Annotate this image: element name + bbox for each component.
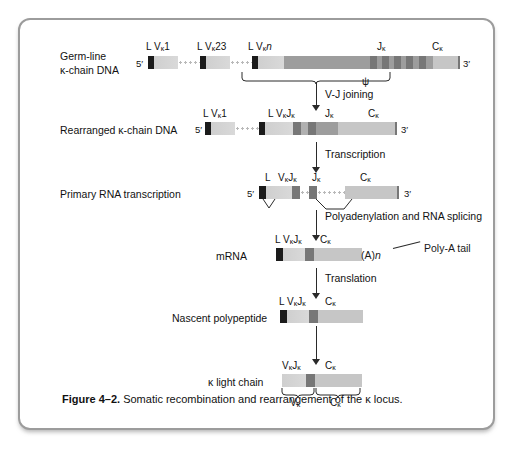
polypeptide-mark-ck: Cκ — [325, 296, 336, 307]
segment-intergenic — [284, 56, 370, 69]
light-chain-bar — [282, 374, 362, 387]
vj-arrow-line — [316, 82, 317, 106]
primary-c-kappa — [345, 186, 397, 199]
germline-mark-vk23: L Vκ23 — [197, 41, 226, 52]
poly-c-kappa — [318, 310, 363, 323]
rearr-c-kappa — [338, 122, 395, 135]
germline-3prime: 3′ — [463, 58, 470, 69]
primary-v — [266, 186, 292, 199]
germline-label-line2: κ-chain DNA — [60, 64, 119, 76]
primary-j-1 — [292, 186, 300, 199]
mrna-j — [305, 248, 314, 261]
germline-5prime: 5′ — [136, 58, 143, 69]
polypeptide-label: Nascent polypeptide — [172, 312, 267, 324]
rearr-j-extra — [308, 122, 316, 135]
primary-rna-3prime: 3′ — [404, 188, 411, 199]
step-transcription: Transcription — [325, 148, 385, 160]
primary-j-dots-1 — [300, 186, 309, 199]
rearr-v-1 — [211, 122, 235, 135]
segment-post-j — [426, 56, 433, 69]
mrna-polya-value: (A)n — [361, 249, 381, 261]
figure-caption-label: Figure 4–2. — [62, 393, 120, 405]
segment-v-n — [258, 56, 284, 69]
mrna-mark-ck: Cκ — [320, 234, 331, 245]
light-chain-label: κ light chain — [208, 376, 263, 388]
polyadenylation-arrow-line — [316, 210, 317, 236]
primary-mark-jk: Jκ — [312, 172, 321, 183]
vj-arrow-head — [312, 105, 320, 111]
pseudogene-symbol: ψ — [362, 76, 369, 87]
rearranged-mark-vkjk: L VκJκ — [268, 108, 295, 119]
step-translation: Translation — [325, 272, 377, 284]
pseudogene-brace — [240, 70, 400, 86]
germline-mark-vk1: L Vκ1 — [146, 41, 170, 52]
step-polyadenylation: Polyadenylation and RNA splicing — [325, 210, 482, 222]
polypeptide-mark-lvkjk: L VκJκ — [279, 296, 306, 307]
rearr-c-end — [395, 122, 397, 135]
polya-annotation: Poly-A tail — [424, 242, 471, 254]
segment-c-end — [458, 56, 460, 69]
translation-arrow-head — [312, 293, 320, 299]
rearranged-label: Rearranged κ-chain DNA — [60, 124, 177, 136]
segment-j-4 — [406, 56, 413, 69]
segment-c-kappa — [433, 56, 458, 69]
primary-intron-dots — [317, 186, 345, 199]
primary-rna-label: Primary RNA transcription — [60, 188, 181, 200]
cleavage-arrow-line — [316, 326, 317, 360]
segment-j-1 — [370, 56, 377, 69]
rearranged-mark-vk1: L Vκ1 — [203, 108, 227, 119]
lc-c-kappa — [315, 374, 362, 387]
segment-j-3 — [394, 56, 401, 69]
transcription-arrow-line — [316, 142, 317, 168]
rearranged-dna-bar — [205, 122, 399, 135]
rearranged-5prime: 5′ — [195, 124, 202, 135]
figure-caption: Figure 4–2. Somatic recombination and re… — [62, 392, 462, 406]
primary-mark-l: L — [265, 172, 271, 183]
figure-caption-text: Somatic recombination and rearrangement … — [123, 393, 402, 405]
segment-j-5 — [419, 56, 426, 69]
rearranged-mark-jk: Jκ — [325, 108, 334, 119]
mrna-c-kappa — [314, 248, 362, 261]
polyadenylation-arrow-head — [312, 235, 320, 241]
figure-canvas: Germ-line κ-chain DNA 5′ L Vκ1 L Vκ23 L … — [20, 20, 497, 432]
step-vj-joining: V-J joining — [325, 88, 373, 100]
segment-v-23 — [206, 56, 230, 69]
rearranged-3prime: 3′ — [401, 124, 408, 135]
germline-label-line1: Germ-line — [60, 50, 106, 62]
mrna-mark-lvkjk: L VκJκ — [275, 234, 302, 245]
primary-j-2 — [309, 186, 317, 199]
rearr-v-joined — [265, 122, 293, 135]
polypeptide-bar — [280, 310, 363, 323]
translation-arrow-line — [316, 268, 317, 294]
light-chain-mark-ck: Cκ — [325, 360, 336, 371]
rearr-intron — [316, 122, 338, 135]
germline-dna-bar — [148, 56, 460, 69]
polya-leader-line — [393, 241, 420, 249]
lc-j — [306, 374, 315, 387]
primary-rna-bar — [259, 186, 401, 199]
primary-mark-vkjk: VκJκ — [278, 172, 297, 183]
primary-rna-5prime: 5′ — [247, 188, 254, 199]
segment-j-2 — [382, 56, 389, 69]
lc-v — [282, 374, 306, 387]
rearr-spacer-dots — [235, 122, 259, 135]
germline-mark-vkn: L Vκn — [248, 41, 272, 52]
primary-mark-ck: Cκ — [360, 172, 371, 183]
figure-card: Germ-line κ-chain DNA 5′ L Vκ1 L Vκ23 L … — [18, 18, 495, 430]
rearr-j-gap-1 — [301, 122, 308, 135]
spacer-dots-1 — [178, 56, 200, 69]
leader-splice-notch — [262, 199, 278, 209]
poly-leader — [280, 310, 287, 323]
mrna-label: mRNA — [216, 250, 247, 262]
rearranged-mark-ck: Cκ — [368, 108, 379, 119]
mrna-leader — [276, 248, 283, 261]
poly-j — [309, 310, 318, 323]
primary-c-end — [397, 186, 399, 199]
poly-v — [287, 310, 309, 323]
cleavage-arrow-head — [312, 359, 320, 365]
germline-mark-jk: Jκ — [377, 41, 386, 52]
rearr-j-joined — [293, 122, 301, 135]
light-chain-mark-vkjk: VκJκ — [282, 360, 301, 371]
spacer-dots-2 — [230, 56, 252, 69]
germline-mark-ck: Cκ — [432, 41, 443, 52]
